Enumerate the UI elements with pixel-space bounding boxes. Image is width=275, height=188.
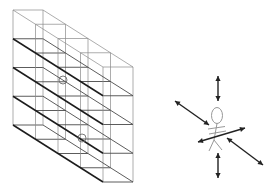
arrow-shaft [227, 138, 263, 165]
arrowhead-icon [215, 96, 220, 101]
arrow-shaft [175, 101, 209, 125]
person-leg [214, 140, 222, 150]
arrow-shaft [198, 128, 245, 142]
diagonal-arrow-upper-left-icon [175, 101, 209, 125]
arrowhead-icon [215, 153, 220, 158]
person-arm [209, 131, 226, 134]
diagram-canvas [0, 0, 275, 188]
diagonal-arrow-lower-right-icon [227, 138, 263, 165]
person-head [212, 108, 223, 124]
up-down-arrow-top-icon [215, 76, 220, 101]
person-leg [209, 140, 214, 151]
shelving-rack-wireframe [13, 10, 133, 182]
stick-figure-person [208, 108, 226, 152]
up-down-arrow-bottom-icon [215, 153, 220, 178]
arrowhead-icon [215, 173, 220, 178]
arrowhead-icon [215, 76, 220, 81]
horizontal-arrow-through-body-icon [198, 127, 245, 143]
